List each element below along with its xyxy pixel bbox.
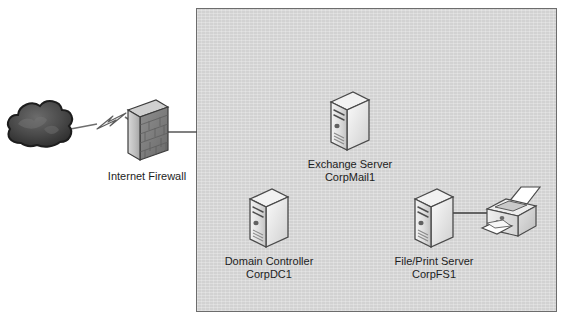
server-tower-icon [411,187,457,253]
server-tower-icon [246,187,292,253]
label-line-1: File/Print Server [395,255,474,267]
node-internet-cloud[interactable] [4,96,76,156]
label-file-print-server: File/Print Server CorpFS1 [395,255,474,281]
label-line-2: CorpMail1 [308,171,392,184]
label-line-2: CorpFS1 [395,268,474,281]
label-line-2: CorpDC1 [225,268,314,281]
label-line-1: Exchange Server [308,158,392,170]
label-line-1: Internet Firewall [108,170,186,182]
node-file-print-server[interactable]: File/Print Server CorpFS1 [411,187,457,257]
network-diagram-canvas: Internet Firewall [0,0,577,322]
node-exchange-server[interactable]: Exchange Server CorpMail1 [327,90,373,160]
cloud-icon [4,96,76,152]
label-internet-firewall: Internet Firewall [108,170,186,183]
server-tower-icon [327,90,373,156]
label-domain-controller: Domain Controller CorpDC1 [225,255,314,281]
node-network-printer[interactable] [478,182,544,248]
label-line-1: Domain Controller [225,255,314,267]
firewall-brick-wall-icon [122,98,172,168]
node-internet-firewall[interactable]: Internet Firewall [122,98,172,172]
label-exchange-server: Exchange Server CorpMail1 [308,158,392,184]
node-domain-controller[interactable]: Domain Controller CorpDC1 [246,187,292,257]
laser-printer-icon [478,182,544,244]
